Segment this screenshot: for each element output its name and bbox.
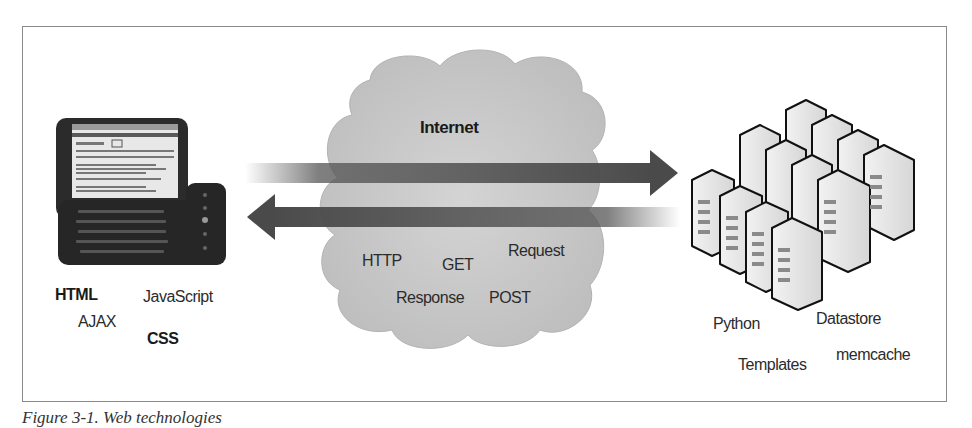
label-templates: Templates — [738, 356, 806, 374]
label-http: HTTP — [362, 252, 402, 270]
label-get: GET — [442, 256, 473, 274]
label-post: POST — [489, 289, 531, 307]
phone-icon — [56, 118, 226, 265]
server-cluster-icon — [692, 100, 914, 310]
label-internet: Internet — [420, 118, 478, 138]
figure-caption: Figure 3-1. Web technologies — [22, 408, 222, 428]
label-css: CSS — [147, 330, 178, 348]
label-html: HTML — [55, 286, 97, 304]
label-python: Python — [713, 315, 760, 333]
label-response: Response — [396, 289, 464, 307]
label-ajax: AJAX — [78, 313, 116, 331]
label-javascript: JavaScript — [143, 288, 213, 306]
label-request: Request — [508, 242, 564, 260]
label-datastore: Datastore — [816, 310, 881, 328]
label-memcache: memcache — [836, 346, 910, 364]
